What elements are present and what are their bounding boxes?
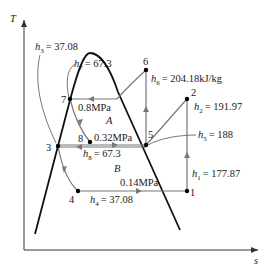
pressure-high: 0.8MPa: [78, 102, 111, 113]
state-point-2: [185, 97, 189, 101]
label-4: 4: [69, 194, 75, 205]
enthalpy-h2: h2= 191.97: [194, 101, 242, 115]
state-point-4: [76, 189, 80, 193]
state-point-3: [56, 144, 60, 148]
pressure-mid: 0.32MPa: [94, 132, 133, 143]
t-axis-label: T: [10, 13, 17, 24]
s-axis-label: s: [254, 255, 258, 266]
enthalpy-h6: h6= 204.18kJ/kg: [151, 73, 223, 87]
state-point-7: [68, 97, 72, 101]
enthalpy-h8: h8= 67.3: [83, 148, 121, 162]
enthalpy-h7: h7= 67.3: [74, 58, 112, 72]
arrow-icon: [62, 166, 67, 173]
enthalpy-h4: h4= 37.08: [90, 194, 133, 208]
label-6: 6: [143, 56, 148, 67]
leader-h5: [148, 135, 196, 145]
label-8: 8: [78, 133, 83, 144]
t-s-diagram: T s: [0, 0, 269, 268]
state-point-5: [144, 143, 148, 147]
label-2: 2: [191, 87, 196, 98]
enthalpy-h3: h3= 37.08: [35, 41, 78, 55]
label-7: 7: [61, 94, 66, 105]
leader-h3: [38, 55, 56, 143]
line-3-4: [58, 146, 78, 191]
enthalpy-h5: h5= 188: [198, 129, 233, 143]
region-a-label: A: [105, 115, 113, 126]
region-b-label: B: [114, 163, 121, 174]
label-5: 5: [148, 129, 153, 140]
state-points: [56, 68, 189, 193]
state-point-6: [144, 68, 148, 72]
arrow-icon: [136, 188, 142, 194]
pressure-low: 0.14MPa: [120, 177, 159, 188]
label-3: 3: [46, 142, 51, 153]
label-1: 1: [190, 187, 195, 198]
state-point-8: [88, 140, 92, 144]
arrow-icon: [184, 152, 190, 158]
enthalpy-h1: h1= 177.87: [192, 168, 240, 182]
line-6-dome: [117, 70, 146, 99]
arrow-icon: [143, 106, 149, 112]
state-point-1: [185, 189, 189, 193]
